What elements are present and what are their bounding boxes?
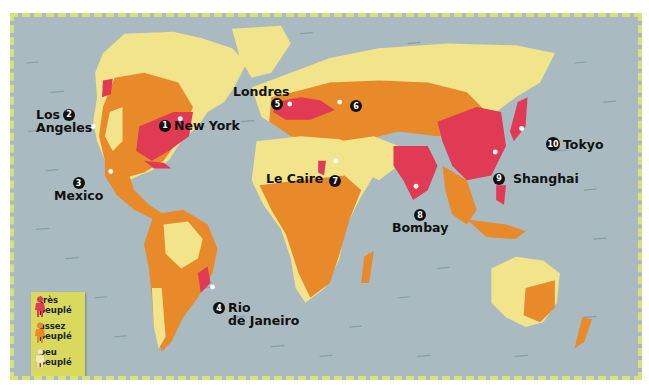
city-le-caire: Le Caire 7 xyxy=(266,169,341,187)
city-marker-6: 6 xyxy=(350,100,362,112)
person-icon xyxy=(33,322,47,344)
city-bombay: 8 Bombay xyxy=(392,209,448,234)
city-number: 4 xyxy=(213,302,225,314)
city-label-line2: Angeles xyxy=(36,121,92,134)
city-number: 6 xyxy=(350,100,362,112)
city-mexico: 3 Mexico xyxy=(54,177,103,202)
legend: très peuplé assez peuplé peu peuplé xyxy=(31,292,85,376)
city-number: 9 xyxy=(493,173,505,185)
person-icon xyxy=(33,296,47,318)
legend-item-assez-peuple: assez peuplé xyxy=(33,322,72,341)
city-number: 7 xyxy=(329,175,341,187)
city-shanghai: 9 Shanghai xyxy=(493,172,579,185)
legend-item-peu-peuple: peu peuplé xyxy=(33,348,72,367)
city-number: 10 xyxy=(546,137,560,151)
city-label: Tokyo xyxy=(563,138,604,151)
world-map: 1 New York Los 2 Angeles 3 Mexico 4 Rio … xyxy=(10,13,642,380)
city-label: Londres xyxy=(233,85,289,98)
city-rio-de-janeiro: 4 Rio de Janeiro xyxy=(213,301,299,327)
city-label: Bombay xyxy=(392,221,448,234)
legend-item-tres-peuple: très peuplé xyxy=(33,296,72,315)
city-label: Mexico xyxy=(54,189,103,202)
city-new-york: 1 New York xyxy=(159,119,240,132)
person-icon xyxy=(33,348,47,370)
city-label: Le Caire xyxy=(266,172,323,185)
city-tokyo: 10 Tokyo xyxy=(546,137,604,151)
city-number: 5 xyxy=(271,98,283,110)
city-number: 1 xyxy=(159,120,171,132)
city-number: 2 xyxy=(63,109,75,121)
city-label: Shanghai xyxy=(513,172,579,185)
city-label: New York xyxy=(174,119,240,132)
city-label-line2: de Janeiro xyxy=(228,314,299,327)
city-londres: Londres 5 xyxy=(233,85,289,110)
city-dots xyxy=(14,17,638,376)
city-los-angeles: Los 2 Angeles xyxy=(36,108,92,134)
